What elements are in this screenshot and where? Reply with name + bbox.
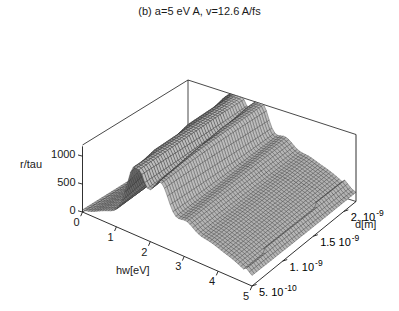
y-tick-base: 10 <box>335 236 350 248</box>
y-tick-label: 5. 10-10 <box>259 282 296 300</box>
x-tick-label: 3 <box>175 261 181 272</box>
y-tick-exponent: -10 <box>284 283 296 293</box>
z-axis-label: r/tau <box>20 159 42 170</box>
z-tick-label: 1000 <box>51 149 75 160</box>
x-tick-label: 1 <box>107 232 113 243</box>
z-tick-label: 500 <box>57 177 75 188</box>
y-tick-mantissa: 5. <box>259 286 268 298</box>
y-tick-base: 10 <box>360 211 375 223</box>
chart-title: (b) a=5 eV A, v=12.6 A/fs <box>0 6 399 17</box>
x-tick-label: 2 <box>141 247 147 258</box>
y-tick-mantissa: 2. <box>351 211 360 223</box>
surface-plot-figure: (b) a=5 eV A, v=12.6 A/fs r/tau hw[eV] d… <box>0 0 399 311</box>
y-tick-base: 10 <box>268 286 283 298</box>
y-tick-exponent: -9 <box>376 208 384 218</box>
x-axis-label: hw[eV] <box>116 265 150 276</box>
z-tick-label: 0 <box>69 205 75 216</box>
y-tick-base: 10 <box>299 261 314 273</box>
y-tick-mantissa: 1.5 <box>320 236 335 248</box>
x-tick-label: 5 <box>243 291 249 302</box>
x-tick-label: 0 <box>74 217 80 228</box>
y-tick-mantissa: 1. <box>290 261 299 273</box>
y-tick-label: 1.5 10-9 <box>320 232 358 250</box>
y-tick-exponent: -9 <box>352 233 360 243</box>
y-tick-label: 1. 10-9 <box>290 257 322 275</box>
y-tick-exponent: -9 <box>315 258 323 268</box>
y-tick-label: 2. 10-9 <box>351 207 383 225</box>
x-tick-label: 4 <box>209 276 215 287</box>
